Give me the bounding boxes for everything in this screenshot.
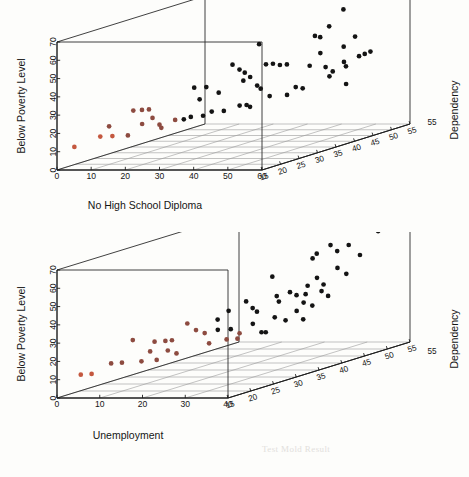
z-axis-max-label: 55 (427, 347, 437, 356)
data-point (226, 309, 231, 314)
data-point (327, 74, 332, 79)
data-point (278, 63, 283, 68)
z-axis-title: Dependency (448, 309, 460, 369)
box-wireframe-edge (57, 232, 239, 270)
scatter3d-bottom: 010203040506070Below Poverty Level010203… (0, 232, 469, 460)
y-axis-tick-label: 30 (48, 110, 58, 120)
data-point (318, 35, 323, 40)
y-axis-tick-label: 20 (48, 356, 58, 366)
x-axis-tick-label: 20 (121, 171, 131, 181)
data-point (237, 103, 242, 108)
data-point (344, 271, 349, 276)
data-point (224, 337, 229, 342)
z-axis-tick (386, 346, 387, 349)
data-point (244, 299, 249, 304)
data-point (362, 52, 367, 57)
data-point (130, 338, 135, 343)
data-point (174, 351, 179, 356)
z-axis-tick-label: 20 (277, 165, 289, 176)
z-axis-tick-label: 30 (293, 378, 305, 389)
z-axis-tick (318, 367, 319, 370)
z-axis-tick-label: 40 (338, 364, 350, 375)
y-axis-tick-label: 70 (48, 265, 58, 275)
x-axis-tick-label: 50 (223, 171, 233, 181)
data-point (181, 117, 186, 122)
data-point (330, 69, 335, 74)
data-point (242, 70, 247, 75)
y-axis-title: Below Poverty Level (15, 286, 27, 381)
data-point (221, 109, 226, 114)
data-point (264, 62, 269, 67)
data-point (154, 358, 159, 363)
data-point (293, 85, 298, 90)
y-axis-tick-label: 10 (48, 147, 58, 157)
data-point (250, 306, 255, 311)
bleed-text-a: Test Mold Result (262, 444, 330, 454)
data-point (159, 125, 164, 130)
data-point (305, 283, 310, 288)
z-axis-tick-label: 25 (270, 385, 282, 396)
data-point (327, 24, 332, 29)
data-point (272, 315, 277, 320)
data-point (342, 60, 347, 65)
data-point (368, 49, 373, 54)
chart-panel-bottom: 010203040506070Below Poverty Level010203… (0, 232, 469, 460)
data-point (78, 372, 83, 377)
x-axis-title: Unemployment (93, 429, 164, 441)
x-axis-tick-label: 40 (189, 171, 199, 181)
data-point (237, 67, 242, 72)
y-axis-tick-label: 30 (48, 338, 58, 348)
data-point (215, 317, 220, 322)
data-point (323, 65, 328, 70)
z-axis-tick (354, 138, 355, 141)
z-axis-tick (364, 353, 365, 356)
data-point (255, 83, 260, 88)
data-point (346, 243, 351, 248)
data-point (230, 62, 235, 67)
z-axis-tick-label: 45 (361, 357, 373, 368)
y-axis-tick-label: 50 (48, 302, 58, 312)
data-point (148, 349, 153, 354)
data-point (255, 309, 260, 314)
data-point (170, 338, 175, 343)
data-point (98, 134, 103, 139)
z-axis-tick (250, 388, 251, 391)
x-axis-tick-label: 10 (95, 399, 105, 409)
y-axis-tick-label: 10 (48, 375, 58, 385)
data-point (341, 44, 346, 49)
data-point (89, 372, 94, 377)
data-point (358, 253, 363, 258)
x-axis-tick-label: 0 (55, 399, 60, 409)
z-axis-tick-label: 45 (369, 137, 381, 148)
z-axis-tick-label: 15 (224, 399, 236, 410)
data-point (283, 318, 288, 323)
data-point (209, 109, 214, 114)
data-point (277, 299, 282, 304)
z-axis-tick-label: 25 (295, 160, 307, 171)
data-point (318, 51, 323, 56)
data-point (131, 108, 136, 113)
z-axis-tick (391, 127, 392, 130)
data-point (376, 232, 381, 233)
x-axis-tick-label: 10 (86, 171, 96, 181)
data-point (152, 339, 157, 344)
data-point (126, 133, 131, 138)
z-axis-tick (335, 144, 336, 147)
z-axis-title: Dependency (448, 80, 460, 140)
data-point (188, 115, 193, 120)
data-point (285, 62, 290, 67)
data-point (165, 348, 170, 353)
data-point (235, 336, 240, 341)
data-point (215, 327, 220, 332)
data-point (274, 294, 279, 299)
y-axis-tick-label: 60 (48, 283, 58, 293)
data-point (163, 339, 168, 344)
chart-panel-top: 010203040506070Below Poverty Level010203… (0, 0, 469, 232)
data-point (303, 292, 308, 297)
data-point (228, 327, 233, 332)
z-axis-tick-label: 50 (388, 131, 400, 142)
data-point (335, 249, 340, 254)
data-point (271, 61, 276, 66)
data-point (173, 118, 178, 123)
x-axis-tick-label: 30 (155, 171, 165, 181)
